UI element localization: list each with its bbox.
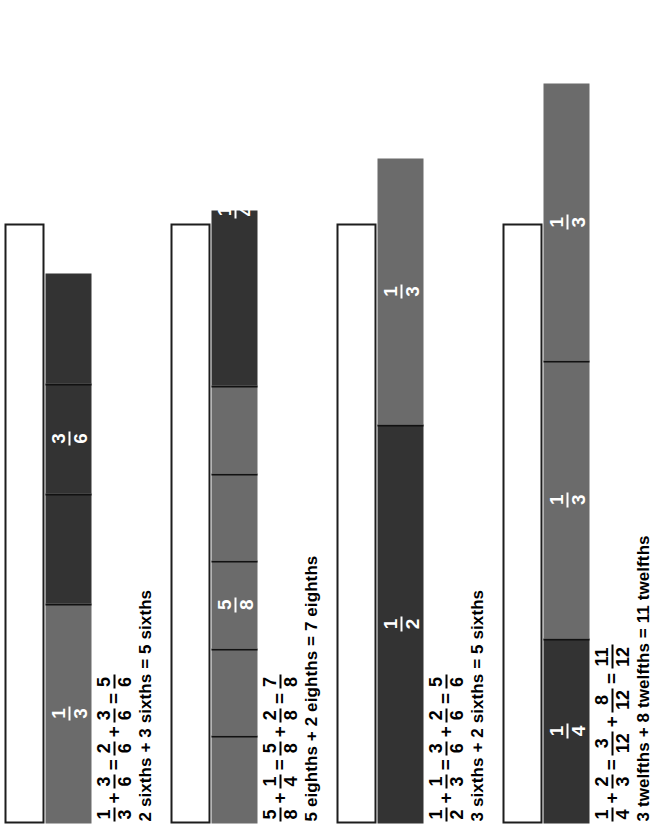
fraction-bar-segment [211,386,257,474]
fraction-glyph: 312 [592,731,631,755]
fraction-bar-segment [543,361,589,639]
fraction-bars-area: 1213 [332,0,424,823]
whole-unit-bar [170,223,210,823]
fraction-numerator: 5 [94,674,112,688]
fraction-equation: 12+13=36+26=56 [426,0,464,821]
fraction-numerator: 7 [260,674,278,688]
fraction-numerator: 1 [94,807,112,821]
equation-operator: = [600,671,622,684]
fraction-denominator: 8 [279,807,299,821]
fraction-example: 121312+13=36+26=563 sixths + 2 sixths = … [332,0,498,835]
fraction-numerator: 2 [592,774,610,788]
fraction-glyph: 14 [592,807,631,821]
fraction-numerator: 3 [426,741,444,755]
whole-unit-bar [4,223,44,823]
fraction-bar-segment [377,424,423,823]
fraction-bar [543,83,589,823]
fraction-glyph: 28 [260,708,299,722]
equation-operator: = [268,758,290,771]
examples-list: 133613+36=26+36=562 sixths + 3 sixths = … [0,0,664,835]
fraction-numerator: 1 [260,774,278,788]
fraction-bar-segment [211,561,257,649]
fraction-glyph: 26 [426,708,465,722]
fraction-numerator: 3 [94,774,112,788]
equation-operator: + [268,725,290,738]
fraction-denominator: 6 [113,741,133,755]
fraction-denominator: 8 [279,708,299,722]
fraction-bars-area: 5814 [166,0,258,823]
equation-operator: = [434,692,456,705]
fraction-bar-segment [543,83,589,361]
fraction-glyph: 36 [94,708,133,722]
fraction-denominator: 2 [445,807,465,821]
equation-operator: = [102,692,124,705]
fraction-bar-segment [211,211,257,386]
fraction-denominator: 6 [113,674,133,688]
fraction-equation: 13+36=26+36=56 [94,0,132,821]
equation-operator: + [102,791,124,804]
fraction-bar [45,163,91,823]
fraction-denominator: 6 [445,674,465,688]
fraction-denominator: 12 [611,688,631,712]
fraction-bar-segment [45,603,91,823]
fraction-numerator: 1 [426,807,444,821]
fraction-glyph: 36 [426,741,465,755]
fraction-denominator: 12 [611,644,631,668]
fraction-denominator: 6 [113,774,133,788]
worksheet-stage: 133613+36=26+36=562 sixths + 3 sixths = … [0,0,664,835]
fraction-numerator: 8 [592,693,610,707]
fraction-numerator: 5 [260,807,278,821]
fraction-denominator: 6 [113,708,133,722]
fraction-numerator: 5 [260,741,278,755]
fraction-example: 14131314+23=312+812=11123 twelfths + 8 t… [498,0,664,835]
fraction-glyph: 56 [426,674,465,688]
fraction-denominator: 3 [113,807,133,821]
fraction-glyph: 812 [592,688,631,712]
fraction-glyph: 14 [260,774,299,788]
example-text-block: 12+13=36+26=563 sixths + 2 sixths = 5 si… [426,0,487,821]
fraction-example: 581458+14=58+28=785 eighths + 2 eighths … [166,0,332,835]
fraction-glyph: 1112 [592,644,631,668]
fraction-denominator: 6 [445,708,465,722]
fraction-bar-segment [45,383,91,493]
fraction-bar [211,123,257,823]
fraction-bar-segment [211,648,257,736]
fraction-glyph: 12 [426,807,465,821]
fraction-glyph: 56 [94,674,133,688]
equation-operator: + [434,725,456,738]
fraction-glyph: 13 [426,774,465,788]
equation-operator: = [434,758,456,771]
fraction-bar-segment [377,158,423,424]
fraction-example: 133613+36=26+36=562 sixths + 3 sixths = … [0,0,166,835]
fraction-bar-segment [45,493,91,603]
fraction-numerator: 2 [94,741,112,755]
fraction-numerator: 2 [426,708,444,722]
equation-operator: + [600,791,622,804]
fraction-numerator: 1 [592,807,610,821]
fraction-glyph: 13 [94,807,133,821]
fraction-numerator: 3 [592,736,610,750]
equation-operator: + [600,715,622,728]
fraction-denominator: 4 [611,807,631,821]
fraction-denominator: 3 [611,774,631,788]
example-text-block: 14+23=312+812=11123 twelfths + 8 twelfth… [592,0,653,821]
whole-unit-bar [502,223,542,823]
fraction-bar-segment [211,736,257,824]
fraction-glyph: 26 [94,741,133,755]
example-text-block: 13+36=26+36=562 sixths + 3 sixths = 5 si… [94,0,155,821]
example-text-block: 58+14=58+28=785 eighths + 2 eighths = 7 … [260,0,321,821]
fraction-denominator: 6 [445,741,465,755]
equation-operator: = [102,758,124,771]
fraction-numerator: 2 [260,708,278,722]
fraction-equation: 58+14=58+28=78 [260,0,298,821]
fraction-denominator: 4 [279,774,299,788]
equation-operator: = [600,758,622,771]
fraction-glyph: 58 [260,741,299,755]
fraction-bar-segment [211,473,257,561]
equation-operator: = [268,692,290,705]
fraction-glyph: 23 [592,774,631,788]
fraction-numerator: 3 [94,708,112,722]
fraction-denominator: 3 [445,774,465,788]
fraction-bars-area: 141313 [498,0,590,823]
fraction-glyph: 78 [260,674,299,688]
